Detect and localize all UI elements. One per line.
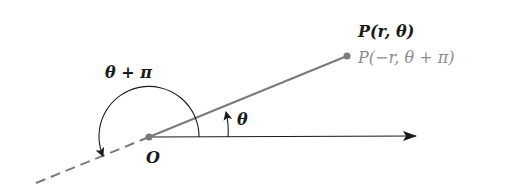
diagram-graphics bbox=[0, 0, 514, 189]
polar-axis bbox=[149, 136, 416, 137]
polar-diagram: P(r, θ) P(−r, θ + π) θ + π θ O bbox=[0, 0, 514, 189]
label-angle-theta-plus-pi: θ + π bbox=[105, 65, 152, 81]
angle-theta-arc bbox=[226, 112, 228, 137]
label-point-primary: P(r, θ) bbox=[358, 24, 414, 40]
label-point-equivalent: P(−r, θ + π) bbox=[358, 50, 454, 66]
label-origin: O bbox=[146, 150, 160, 166]
angle-theta-plus-pi-arc bbox=[99, 86, 199, 156]
origin-dot bbox=[146, 134, 153, 141]
dashed-ray-extension bbox=[36, 137, 149, 183]
point-dot bbox=[344, 53, 351, 60]
label-angle-theta: θ bbox=[237, 112, 248, 128]
